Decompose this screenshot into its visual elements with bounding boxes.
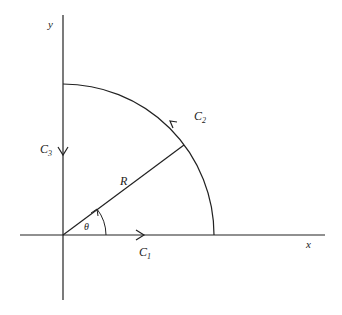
y-axis-label: y — [47, 18, 53, 30]
angle-arrow-icon — [91, 209, 98, 216]
c1-label: C1 — [139, 245, 151, 261]
radius-label: R — [119, 174, 128, 188]
angle-arc — [97, 209, 106, 235]
contour-diagram: y x C3 C2 C1 R θ — [0, 0, 342, 315]
arc-c2 — [63, 84, 214, 235]
c2-label: C2 — [194, 109, 206, 125]
c2-arrow-icon — [170, 121, 177, 128]
x-axis-label: x — [305, 238, 311, 250]
c3-label: C3 — [40, 142, 52, 158]
radius-line — [63, 145, 184, 235]
theta-label: θ — [84, 221, 89, 232]
